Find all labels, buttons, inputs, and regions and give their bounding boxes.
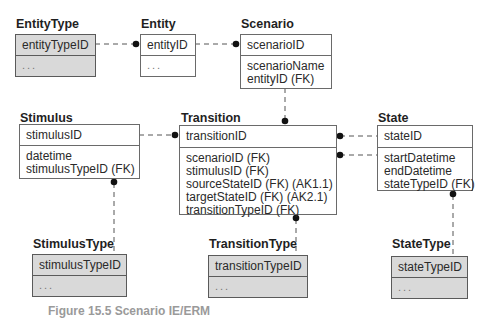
attribute-list: datetime stimulusTypeID (FK) (20, 146, 139, 178)
attribute: transitionTypeID (FK) (186, 204, 330, 217)
primary-key: entityID (141, 35, 195, 56)
attribute-list: scenarioName entityID (FK) (241, 56, 331, 88)
attribute-ellipsis: ... (209, 277, 307, 295)
entity-title-state: State (378, 111, 409, 125)
primary-key: transitionID (180, 126, 336, 148)
primary-key: entityTypeID (16, 35, 95, 56)
attribute-ellipsis: ... (33, 276, 126, 294)
entity-transition[interactable]: transitionID scenarioID (FK) stimulusID … (179, 125, 337, 215)
entity-statetype[interactable]: stateTypeID ... (391, 256, 468, 299)
attribute-list: scenarioID (FK) stimulusID (FK) sourceSt… (180, 148, 336, 219)
entity-stimulus[interactable]: stimulusID datetime stimulusTypeID (FK) (19, 124, 140, 179)
cardinality-dot-icon (172, 132, 179, 139)
entity-title-entitytype: EntityType (16, 17, 79, 31)
attribute: entityID (FK) (247, 73, 325, 86)
primary-key: transitionTypeID (209, 256, 307, 277)
cardinality-dot-icon (233, 41, 240, 48)
entity-entity[interactable]: entityID ... (140, 34, 196, 77)
entity-title-scenario: Scenario (241, 17, 294, 31)
attribute-ellipsis: ... (392, 278, 467, 296)
entity-title-transition: Transition (181, 111, 241, 125)
entity-state[interactable]: stateID startDatetime endDatetime stateT… (377, 125, 473, 191)
attribute: stateTypeID (FK) (384, 178, 466, 191)
primary-key: stateID (378, 126, 472, 148)
entity-title-statetype: StateType (392, 237, 451, 251)
primary-key: stimulusTypeID (33, 255, 126, 276)
entity-title-stimulus: Stimulus (20, 111, 73, 125)
primary-key: scenarioID (241, 35, 331, 56)
entity-title-transitiontype: TransitionType (209, 237, 297, 251)
attribute-ellipsis: ... (16, 56, 95, 74)
attribute-ellipsis: ... (141, 56, 195, 74)
entity-title-stimulustype: StimulusType (33, 237, 114, 251)
attribute-list: startDatetime endDatetime stateTypeID (F… (378, 148, 472, 193)
cardinality-dot-icon (337, 133, 344, 140)
entity-transitiontype[interactable]: transitionTypeID ... (208, 255, 308, 298)
entity-scenario[interactable]: scenarioID scenarioName entityID (FK) (240, 34, 332, 89)
figure-caption: Figure 15.5 Scenario IE/ERM (48, 304, 210, 318)
cardinality-dot-icon (337, 152, 344, 159)
cardinality-dot-icon (282, 118, 289, 125)
attribute: stimulusTypeID (FK) (26, 163, 133, 176)
entity-stimulustype[interactable]: stimulusTypeID ... (32, 254, 127, 297)
entity-entitytype[interactable]: entityTypeID ... (15, 34, 96, 77)
cardinality-dot-icon (111, 179, 118, 186)
cardinality-dot-icon (133, 41, 140, 48)
primary-key: stateTypeID (392, 257, 467, 278)
entity-title-entity: Entity (141, 17, 176, 31)
primary-key: stimulusID (20, 125, 139, 146)
